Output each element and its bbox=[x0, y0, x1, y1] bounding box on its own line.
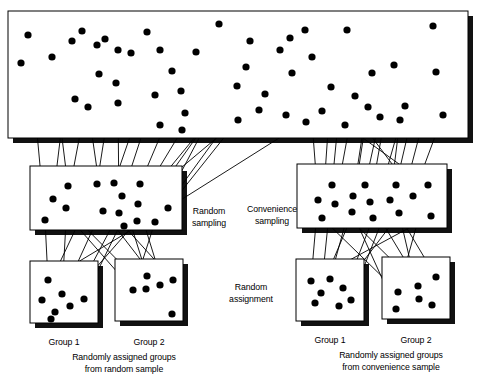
population-dot bbox=[282, 111, 289, 118]
population-dot bbox=[376, 113, 383, 120]
population-dot bbox=[390, 61, 397, 68]
random-sample-dot bbox=[120, 222, 127, 229]
right-group-2-dot bbox=[415, 295, 422, 302]
population-dot bbox=[327, 83, 334, 90]
population-dot bbox=[301, 26, 308, 33]
label-right-group-1: Group 1 bbox=[303, 334, 356, 346]
population-dot bbox=[192, 48, 199, 55]
right-group-2-dot bbox=[428, 301, 435, 308]
right-group-1-dot bbox=[335, 302, 342, 309]
left-group-2-dot bbox=[168, 310, 175, 317]
population-dot bbox=[24, 31, 31, 38]
convenience-sample-dot bbox=[424, 181, 431, 188]
population-dot bbox=[95, 70, 102, 77]
population-dot bbox=[318, 107, 325, 114]
population-dot bbox=[368, 69, 375, 76]
convenience-sample-dot bbox=[318, 214, 325, 221]
right-group-1-dot bbox=[317, 289, 324, 296]
convenience-sample-dot bbox=[348, 208, 355, 215]
box-outlines bbox=[8, 11, 468, 323]
right-group-2-dot bbox=[414, 282, 421, 289]
population-dot bbox=[288, 69, 295, 76]
population-dot bbox=[71, 95, 78, 102]
convenience-sample-dot bbox=[409, 192, 416, 199]
right-group-1-dot bbox=[311, 299, 318, 306]
convenience-sample-dot bbox=[386, 196, 393, 203]
caption-left: Randomly assigned groups from random sam… bbox=[61, 351, 186, 374]
sampling-diagram bbox=[0, 0, 482, 380]
left-group-2-dot bbox=[129, 286, 136, 293]
population-dot bbox=[93, 41, 100, 48]
left-group-1-dot bbox=[38, 296, 45, 303]
population-dot bbox=[181, 109, 188, 116]
label-random-sampling: Random sampling bbox=[187, 205, 231, 228]
population-dot bbox=[302, 118, 309, 125]
convenience-sample-dot bbox=[314, 196, 321, 203]
convenience-sample-dot bbox=[349, 192, 356, 199]
population-dot bbox=[233, 82, 240, 89]
population-dot bbox=[156, 121, 163, 128]
population-dot bbox=[396, 116, 403, 123]
population-dot bbox=[68, 37, 75, 44]
population-dot bbox=[84, 103, 91, 110]
convenience-sample-dot bbox=[366, 198, 373, 205]
random-sample-dot bbox=[133, 217, 140, 224]
right-group-2-dot bbox=[394, 288, 401, 295]
left-group-1-dot bbox=[44, 276, 51, 283]
population-dot bbox=[177, 87, 184, 94]
left-group-1-dot bbox=[51, 308, 58, 315]
label-right-group-2: Group 2 bbox=[389, 334, 442, 346]
left-group-2-dot bbox=[142, 285, 149, 292]
population-dot bbox=[439, 111, 446, 118]
population-dot bbox=[215, 20, 222, 27]
population-dot bbox=[127, 49, 134, 56]
random-sample-dot bbox=[118, 192, 125, 199]
population-dot bbox=[276, 46, 283, 53]
population-dot bbox=[261, 90, 268, 97]
random-sample-dot bbox=[64, 182, 71, 189]
population-dot bbox=[48, 53, 55, 60]
population-dot bbox=[308, 53, 315, 60]
convenience-sample-dot bbox=[392, 181, 399, 188]
population-dot bbox=[112, 79, 119, 86]
population-dot bbox=[429, 22, 436, 29]
population-dot bbox=[246, 37, 253, 44]
right-group-1-dot bbox=[326, 275, 333, 282]
population-dot bbox=[143, 28, 150, 35]
population-dot bbox=[17, 59, 24, 66]
convenience-sample-dot bbox=[328, 181, 335, 188]
population-dot bbox=[341, 121, 348, 128]
left-group-1-dot bbox=[66, 302, 73, 309]
left-group-2-dot bbox=[156, 281, 163, 288]
random-sample-dot bbox=[62, 204, 69, 211]
population-dot bbox=[114, 99, 121, 106]
right-group-2-dot bbox=[392, 305, 399, 312]
random-sample-dot bbox=[115, 209, 122, 216]
random-sample-dot bbox=[151, 218, 158, 225]
label-convenience-sampling: Convenience sampling bbox=[245, 203, 298, 226]
convenience-sample-dot bbox=[361, 181, 368, 188]
random-sample-dot bbox=[164, 204, 171, 211]
population-dot bbox=[101, 35, 108, 42]
population-dot bbox=[114, 46, 121, 53]
random-sample-dot bbox=[134, 200, 141, 207]
left-group-2-dot bbox=[143, 272, 150, 279]
convenience-sample-dot bbox=[427, 212, 434, 219]
right-group-1-dot bbox=[307, 277, 314, 284]
population-dot bbox=[151, 91, 158, 98]
population-dot bbox=[78, 27, 85, 34]
caption-right: Randomly assigned groups from convenienc… bbox=[324, 349, 458, 372]
population-dot bbox=[364, 103, 371, 110]
population-dot bbox=[156, 46, 163, 53]
left-group-1-dot bbox=[47, 315, 54, 322]
random-sample-dot bbox=[110, 179, 117, 186]
convenience-sample-dot bbox=[331, 200, 338, 207]
population-dot bbox=[401, 102, 408, 109]
population-dot bbox=[178, 126, 185, 133]
population-dot bbox=[351, 92, 358, 99]
random-sample-dot bbox=[49, 195, 56, 202]
population-dot bbox=[242, 63, 249, 70]
left-group-1-dot bbox=[58, 290, 65, 297]
diagram-canvas: Random sampling Convenience sampling Ran… bbox=[0, 0, 482, 380]
label-left-group-2: Group 2 bbox=[122, 336, 175, 348]
